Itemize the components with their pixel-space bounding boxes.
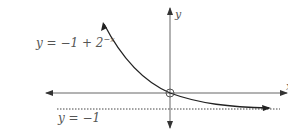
curve-label-text: y = −1 + 2 xyxy=(35,36,103,50)
curve-arrow-left-icon xyxy=(101,22,107,31)
function-graph: y = −1 + 2−x y = −1 y x xyxy=(0,0,288,132)
exponential-curve xyxy=(104,24,269,108)
curve-arrow-right-icon xyxy=(262,105,271,111)
curve-label-exponent: −x xyxy=(103,35,115,44)
asymptote-label: y = −1 xyxy=(57,111,100,125)
y-axis-label: y xyxy=(174,8,182,21)
x-axis-label: x xyxy=(286,80,288,93)
curve-label: y = −1 + 2−x xyxy=(35,35,115,50)
